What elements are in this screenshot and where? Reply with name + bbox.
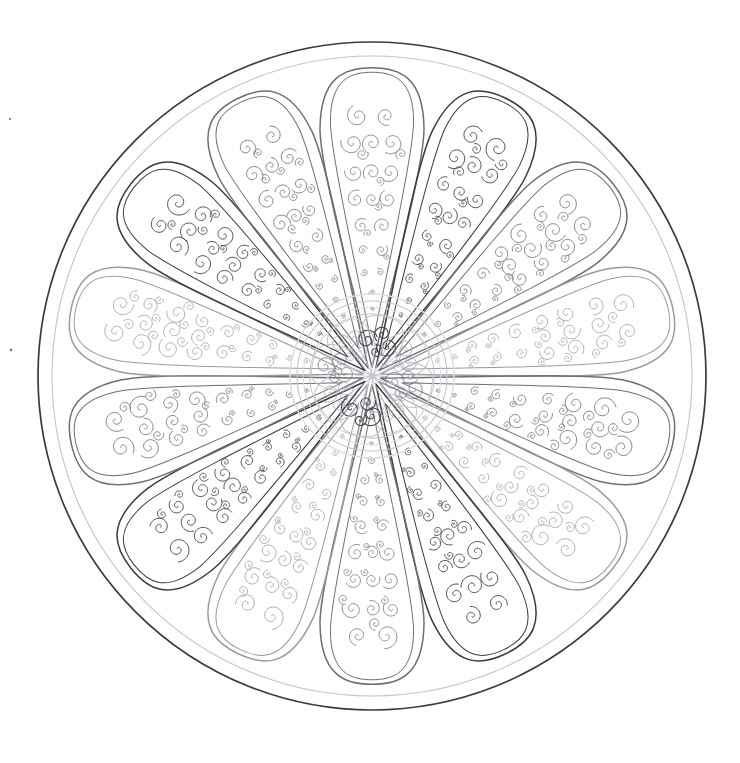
mandala-artwork: Floral Mandala Coloring Page	[0, 0, 740, 763]
scan-speck-lower	[10, 349, 13, 352]
mandala-canvas: Floral Mandala Coloring Page	[0, 0, 740, 763]
scan-speck-upper	[9, 118, 11, 120]
